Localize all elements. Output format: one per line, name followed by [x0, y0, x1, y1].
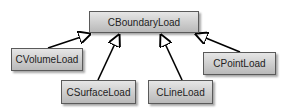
class-label: CVolumeLoad — [16, 54, 79, 65]
class-label: CSurfaceLoad — [67, 87, 131, 98]
class-box-cpointload: CPointLoad — [203, 52, 276, 75]
arrow-line-to-boundary — [161, 35, 182, 80]
class-box-clineload: CLineLoad — [148, 80, 213, 104]
arrow-point-to-boundary — [196, 34, 240, 52]
class-label: CBoundaryLoad — [108, 17, 180, 28]
class-diagram: CBoundaryLoad CVolumeLoad CSurfaceLoad C… — [0, 0, 290, 110]
class-label: CPointLoad — [213, 58, 265, 69]
class-box-csurfaceload: CSurfaceLoad — [61, 80, 136, 104]
arrow-surface-to-boundary — [98, 35, 119, 80]
class-box-cboundaryload: CBoundaryLoad — [89, 11, 199, 33]
class-label: CLineLoad — [156, 87, 204, 98]
arrow-volume-to-boundary — [48, 34, 90, 48]
class-box-cvolumeload: CVolumeLoad — [11, 48, 83, 71]
